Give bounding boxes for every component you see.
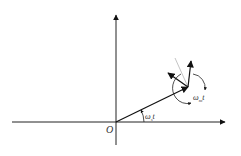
vector-diagram: O ωst ωmt — [0, 0, 241, 156]
rotor-frame — [168, 58, 205, 104]
stator-angle-arc — [141, 110, 144, 122]
stator-angle-label: ωst — [145, 112, 156, 122]
origin-label: O — [106, 124, 113, 135]
rotor-angle-label: ωmt — [193, 93, 205, 103]
